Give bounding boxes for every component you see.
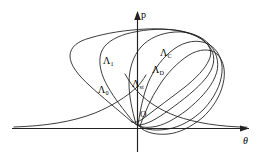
lambda-1-sub: 1	[111, 60, 114, 67]
origin-label: O	[140, 110, 147, 119]
lambda-d-sub: D	[160, 69, 164, 76]
lambda-c-base: Λ	[160, 47, 167, 58]
axes-group	[12, 11, 249, 152]
theta-axis-arrowhead	[240, 125, 249, 131]
lambda-st-base: Λ	[132, 78, 139, 89]
loop-lambda-d	[138, 41, 222, 130]
theta-axis-label: θ	[243, 136, 248, 146]
lambda-c-sub: C	[168, 52, 172, 59]
p-axis-arrowhead	[134, 11, 141, 20]
lambda-d-base: Λ	[152, 64, 159, 75]
p-axis-label: p	[141, 10, 146, 20]
curve-label-lambda-d: ΛD	[152, 60, 164, 76]
lambda-1-base: Λ	[103, 55, 110, 66]
curve-label-lambda-1: Λ1	[103, 51, 113, 67]
lambda-st-sub: st	[140, 83, 144, 90]
curve-label-lambda-0: Λ0	[98, 80, 108, 96]
lambda-0-base: Λ	[98, 84, 105, 95]
asymptotic-branch-left	[14, 75, 146, 127]
lambda-0-sub: 0	[106, 89, 109, 96]
curve-label-lambda-c: ΛC	[160, 43, 171, 59]
curve-label-lambda-st: Λst	[132, 74, 143, 90]
phase-plane-figure: Λ0 Λ1 Λst ΛD ΛC p θ O	[0, 0, 266, 161]
loop-family	[70, 29, 224, 134]
